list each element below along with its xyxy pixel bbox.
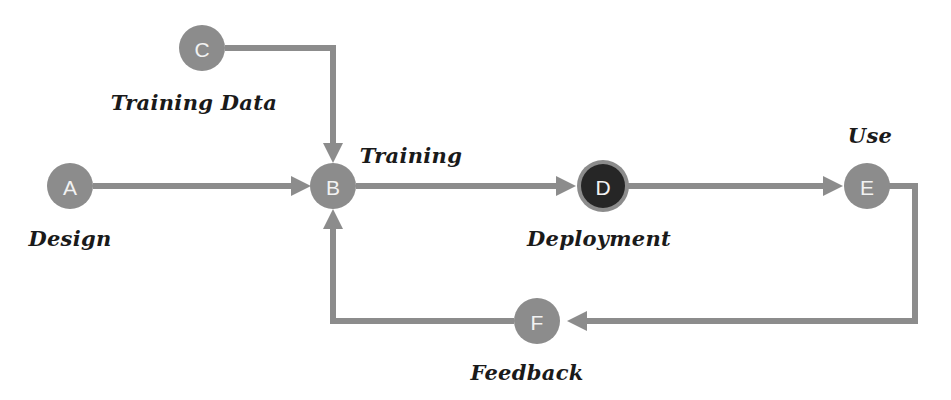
label-deployment: Deployment [526, 226, 671, 251]
edge-design-to-training-arrowhead [291, 176, 311, 196]
edge-training-data-to-training-arrowhead [323, 143, 343, 163]
node-d-letter: D [595, 176, 610, 199]
node-c-training-data[interactable]: C [179, 25, 225, 71]
labels-layer: Design Training Data Training Deployment… [27, 90, 892, 385]
node-c-letter: C [194, 38, 209, 61]
label-design: Design [27, 226, 111, 251]
lifecycle-flow-diagram: A C B D E [0, 0, 951, 400]
edge-feedback-to-training-arrowhead [323, 209, 343, 229]
edge-training-to-deployment-arrowhead [556, 176, 576, 196]
node-a-design[interactable]: A [47, 163, 93, 209]
node-a-letter: A [63, 176, 77, 199]
label-training-data: Training Data [111, 90, 277, 115]
node-e-use[interactable]: E [844, 163, 890, 209]
edge-deployment-to-use [628, 176, 843, 196]
edge-use-to-feedback-arrowhead [567, 311, 587, 331]
edge-feedback-to-training-line [333, 220, 514, 321]
node-f-feedback[interactable]: F [514, 298, 560, 344]
label-feedback: Feedback [469, 360, 583, 385]
diagram-canvas: A C B D E [0, 0, 951, 400]
node-b-letter: B [326, 176, 340, 199]
edge-deployment-to-use-arrowhead [823, 176, 843, 196]
edge-design-to-training [93, 176, 311, 196]
node-b-training[interactable]: B [310, 163, 356, 209]
node-f-letter: F [531, 311, 544, 334]
node-e-letter: E [860, 176, 874, 199]
edge-training-to-deployment [356, 176, 576, 196]
edge-feedback-to-training [323, 209, 514, 321]
label-use: Use [848, 123, 892, 148]
node-d-deployment[interactable]: D [577, 160, 629, 212]
label-training: Training [360, 143, 462, 168]
